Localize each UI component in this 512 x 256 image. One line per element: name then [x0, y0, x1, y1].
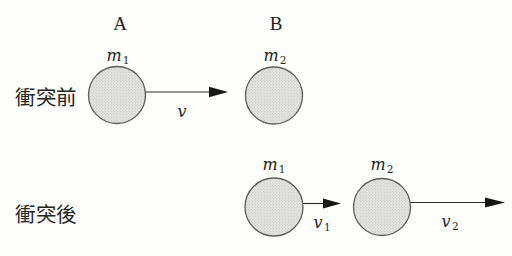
mass-symbol: m: [107, 46, 122, 65]
ball-a-name-label: A: [113, 13, 127, 34]
after-row: 衝突後 m1 v1 m2 v2: [15, 155, 505, 236]
velocity-v-arrowhead: [209, 87, 228, 97]
velocity-symbol: v: [313, 213, 322, 232]
mass-subscript: 2: [280, 54, 287, 66]
diagram-canvas: 衝突前 A m1 v B m2 衝突後 m1 v1 m2: [0, 0, 512, 256]
velocity-symbol: v: [441, 212, 450, 231]
velocity-v1-label: v1: [313, 213, 330, 233]
ball-b: [246, 67, 303, 124]
velocity-v2-label: v2: [441, 212, 458, 232]
velocity-v1-arrow: [303, 199, 341, 209]
velocity-subscript: 1: [324, 221, 331, 233]
stage-label-after: 衝突後: [15, 204, 77, 226]
mass-symbol: m: [264, 46, 279, 65]
mass-subscript: 1: [123, 54, 130, 66]
stage-label-before: 衝突前: [15, 87, 77, 109]
velocity-subscript: 2: [452, 220, 459, 232]
velocity-v-label: v: [177, 102, 186, 121]
mass-symbol: m: [263, 155, 278, 174]
velocity-v2-arrowhead: [485, 197, 505, 207]
ball-a: [89, 67, 146, 124]
ball-a-mass-label-after: m1: [263, 155, 286, 175]
mass-symbol: m: [371, 155, 386, 174]
ball-b-after: [354, 179, 411, 236]
ball-b-mass-label: m2: [264, 46, 287, 66]
ball-b-name-label: B: [270, 13, 283, 34]
ball-a-mass-label: m1: [107, 46, 130, 66]
collision-diagram: 衝突前 A m1 v B m2 衝突後 m1 v1 m2: [0, 0, 512, 256]
mass-subscript: 2: [387, 163, 394, 175]
ball-b-mass-label-after: m2: [371, 155, 394, 175]
velocity-v-arrow: [146, 87, 229, 97]
mass-subscript: 1: [279, 163, 286, 175]
ball-a-after: [245, 178, 303, 236]
velocity-v2-arrow: [411, 197, 506, 207]
before-row: 衝突前 A m1 v B m2: [15, 13, 303, 124]
velocity-v1-arrowhead: [323, 199, 341, 209]
